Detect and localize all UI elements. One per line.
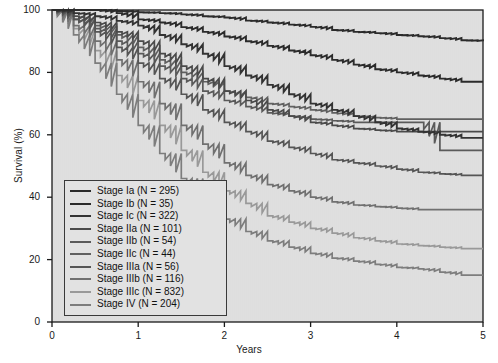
- legend-item: Stage IIIa (N = 56): [70, 261, 220, 274]
- legend-color-swatch: [70, 304, 91, 306]
- legend-item-label: Stage IIIb (N = 116): [97, 273, 184, 286]
- legend-color-swatch: [70, 291, 91, 293]
- legend-color-swatch: [70, 253, 91, 255]
- legend-item-label: Stage IIa (N = 101): [97, 223, 182, 236]
- legend-item: Stage IIc (N = 44): [70, 248, 220, 261]
- legend-item-label: Stage Ia (N = 295): [97, 185, 179, 198]
- legend-color-swatch: [70, 228, 91, 230]
- legend-item: Stage IV (N = 204): [70, 298, 220, 311]
- legend-item: Stage IIb (N = 54): [70, 235, 220, 248]
- legend-item-label: Stage IIb (N = 54): [97, 235, 176, 248]
- legend-color-swatch: [70, 203, 91, 205]
- chart-legend: Stage Ia (N = 295)Stage Ib (N = 35)Stage…: [64, 180, 227, 316]
- legend-item: Stage IIa (N = 101): [70, 223, 220, 236]
- legend-color-swatch: [70, 190, 91, 192]
- legend-item: Stage Ia (N = 295): [70, 185, 220, 198]
- legend-item-label: Stage IV (N = 204): [97, 298, 180, 311]
- legend-color-swatch: [70, 266, 91, 268]
- legend-item-label: Stage IIIa (N = 56): [97, 261, 179, 274]
- legend-item: Stage Ib (N = 35): [70, 198, 220, 211]
- legend-item: Stage IIIc (N = 832): [70, 286, 220, 299]
- legend-item: Stage Ic (N = 322): [70, 210, 220, 223]
- legend-item-label: Stage IIIc (N = 832): [97, 286, 184, 299]
- legend-color-swatch: [70, 278, 91, 280]
- legend-item-label: Stage Ib (N = 35): [97, 198, 173, 211]
- legend-item: Stage IIIb (N = 116): [70, 273, 220, 286]
- survival-chart-figure: Survival (%) Years 020406080100012345 St…: [0, 0, 498, 363]
- legend-item-label: Stage IIc (N = 44): [97, 248, 176, 261]
- legend-color-swatch: [70, 215, 91, 217]
- legend-color-swatch: [70, 241, 91, 243]
- legend-item-label: Stage Ic (N = 322): [97, 210, 178, 223]
